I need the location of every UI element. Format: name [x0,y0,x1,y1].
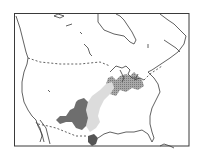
map-border [15,14,190,147]
north-america-map [0,0,200,165]
map-figure [0,0,200,165]
